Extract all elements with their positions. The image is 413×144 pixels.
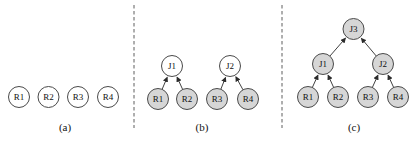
edge-b-R1-to-b-J1	[162, 78, 167, 90]
node-label: R1	[303, 92, 314, 102]
node-label: R3	[212, 94, 223, 104]
node-b-R3: R3	[207, 89, 228, 110]
edge-c-R1-to-c-J1	[312, 75, 317, 87]
node-label: R2	[333, 92, 344, 102]
node-layer: R1R2R3R4J1J2R1R2R3R4J3J1J2R1R2R3R4	[9, 19, 409, 110]
edge-b-R4-to-b-J2	[236, 77, 243, 90]
caption-a: (a)	[59, 121, 72, 134]
edge-b-R3-to-b-J2	[221, 78, 226, 90]
node-c-R3: R3	[358, 87, 379, 108]
node-a-R3: R3	[68, 87, 89, 108]
edge-c-R3-to-c-J2	[372, 75, 377, 87]
node-b-R4: R4	[238, 89, 259, 110]
node-label: J2	[379, 59, 387, 69]
edge-c-R4-to-c-J2	[388, 75, 393, 87]
edge-c-J2-to-c-J3	[362, 39, 377, 56]
caption-layer: (a)(b)(c)	[59, 121, 361, 134]
node-label: R2	[182, 94, 193, 104]
node-c-R2: R2	[328, 87, 349, 108]
node-label: R4	[393, 92, 404, 102]
node-a-R2: R2	[38, 87, 59, 108]
node-b-R2: R2	[177, 89, 198, 110]
node-label: R1	[153, 94, 164, 104]
node-label: J3	[349, 24, 358, 34]
node-b-J1: J1	[162, 56, 183, 77]
edge-b-R2-to-b-J1	[177, 77, 182, 89]
caption-c: (c)	[348, 121, 361, 134]
node-c-J2: J2	[373, 54, 394, 75]
caption-b: (b)	[196, 121, 209, 134]
node-label: R3	[73, 92, 84, 102]
node-label: R3	[363, 92, 374, 102]
node-label: R1	[14, 92, 25, 102]
node-b-J2: J2	[220, 56, 241, 77]
edge-c-R2-to-c-J1	[328, 75, 333, 87]
node-c-J1: J1	[313, 54, 334, 75]
figure-canvas: R1R2R3R4J1J2R1R2R3R4J3J1J2R1R2R3R4 (a)(b…	[0, 0, 413, 144]
node-b-R1: R1	[148, 89, 169, 110]
node-label: R2	[43, 92, 54, 102]
node-c-J3: J3	[343, 19, 364, 40]
node-a-R4: R4	[98, 87, 119, 108]
edge-layer	[162, 38, 394, 89]
node-label: R4	[103, 92, 114, 102]
tree-figure-diagram: R1R2R3R4J1J2R1R2R3R4J3J1J2R1R2R3R4 (a)(b…	[0, 0, 413, 144]
node-a-R1: R1	[9, 87, 30, 108]
node-c-R1: R1	[298, 87, 319, 108]
edge-c-J1-to-c-J3	[330, 38, 345, 56]
node-label: J1	[319, 59, 327, 69]
node-label: J2	[226, 61, 234, 71]
node-label: R4	[243, 94, 254, 104]
node-c-R4: R4	[388, 87, 409, 108]
node-label: J1	[168, 61, 176, 71]
